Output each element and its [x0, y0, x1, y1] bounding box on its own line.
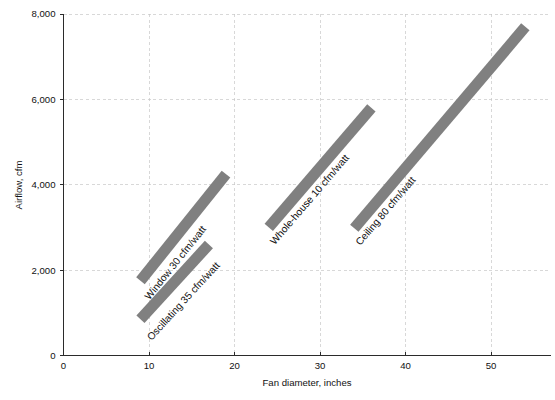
- x-tick-label: 40: [400, 360, 411, 371]
- series-label: Whole-house 10 cfm/watt: [268, 152, 351, 247]
- series-labels: Oscillating 35 cfm/wattWindow 30 cfm/wat…: [143, 152, 418, 342]
- x-axis-title: Fan diameter, inches: [262, 377, 351, 388]
- tick-labels: 02,0004,0006,0008,00001020304050: [31, 8, 496, 370]
- x-tick-label: 50: [486, 360, 497, 371]
- y-tick-label: 0: [50, 350, 55, 361]
- x-tick-label: 0: [61, 360, 66, 371]
- x-tick-label: 20: [229, 360, 240, 371]
- y-tick-label: 6,000: [31, 94, 55, 105]
- y-axis-title: Airflow, cfm: [13, 160, 24, 209]
- series-bar: [350, 23, 529, 232]
- x-tick-label: 30: [315, 360, 326, 371]
- tick-marks: [60, 14, 492, 356]
- x-tick-label: 10: [144, 360, 155, 371]
- chart-figure: 02,0004,0006,0008,00001020304050 Oscilla…: [0, 0, 555, 400]
- y-tick-label: 2,000: [31, 265, 55, 276]
- y-tick-label: 8,000: [31, 8, 55, 19]
- airflow-vs-fan-diameter-chart: 02,0004,0006,0008,00001020304050 Oscilla…: [0, 0, 555, 400]
- y-tick-label: 4,000: [31, 179, 55, 190]
- series-label-group: Whole-house 10 cfm/watt: [268, 152, 351, 247]
- y-axis-title-group: Airflow, cfm: [13, 160, 24, 209]
